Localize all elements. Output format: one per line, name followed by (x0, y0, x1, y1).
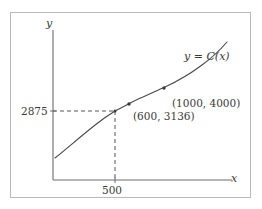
point-label-1000-4000: (1000, 4000) (172, 97, 240, 109)
x-tick-label-500: 500 (102, 184, 122, 196)
x-axis-label: x (231, 172, 237, 185)
curve-label-leader (204, 63, 213, 68)
figure-container: y x 2875 500 (600, 3136) (1000, 4000) y … (0, 0, 262, 209)
point-marker-500-2875 (114, 110, 117, 113)
point-label-600-3136: (600, 3136) (133, 110, 195, 122)
point-marker-1000-4000 (162, 86, 165, 89)
point-marker-600-3136 (127, 102, 130, 105)
curve-equation-label: y = C(x) (184, 50, 230, 63)
curve-label-rhs: C(x) (206, 50, 229, 63)
curve-label-equals: = (190, 50, 206, 63)
y-axis-label: y (46, 17, 52, 30)
y-tick-label-2875: 2875 (21, 105, 48, 117)
